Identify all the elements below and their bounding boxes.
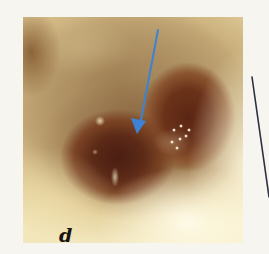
leader-line (0, 0, 269, 254)
